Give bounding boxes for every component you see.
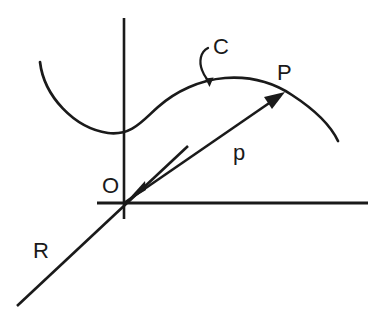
origin-label-o: O: [102, 175, 119, 197]
curve-label-c: C: [213, 36, 229, 58]
vector-p-arrowhead: [264, 92, 285, 109]
line-r-arrowhead: [126, 181, 146, 202]
line-R: [17, 146, 188, 306]
diagram-svg: [0, 0, 385, 319]
vector-p-shaft: [124, 97, 278, 203]
line-label-r: R: [33, 240, 49, 262]
diagram-canvas: C P p O R: [0, 0, 385, 319]
leader-line-C: [200, 48, 209, 82]
point-label-p-upper: P: [277, 62, 292, 84]
vector-label-p-lower: p: [233, 142, 245, 164]
curve-C: [40, 62, 338, 141]
